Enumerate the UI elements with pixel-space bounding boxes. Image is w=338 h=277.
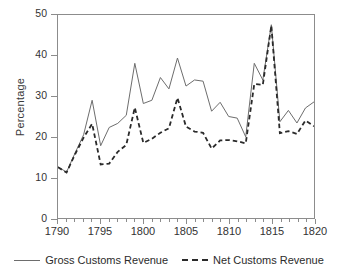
x-tick-minor [152, 219, 153, 222]
x-tick-minor [117, 219, 118, 222]
plot-area [57, 14, 315, 219]
chart-legend: Gross Customs Revenue Net Customs Revenu… [0, 249, 338, 271]
x-tick-minor [246, 219, 247, 222]
y-tick-label: 0 [21, 212, 47, 224]
x-tick-minor [255, 219, 256, 222]
x-tick-label: 1795 [80, 225, 120, 237]
x-tick-minor [74, 219, 75, 222]
x-tick-minor [289, 219, 290, 222]
y-tick-label: 50 [21, 7, 47, 19]
x-tick-major [186, 219, 187, 224]
x-tick-major [57, 219, 58, 224]
x-tick-label: 1815 [252, 225, 292, 237]
legend-label-net: Net Customs Revenue [213, 254, 324, 266]
x-tick-minor [220, 219, 221, 222]
x-tick-minor [169, 219, 170, 222]
legend-swatch-dashed-icon [182, 259, 208, 261]
x-tick-major [315, 219, 316, 224]
x-tick-label: 1820 [295, 225, 335, 237]
legend-item-net: Net Customs Revenue [182, 254, 324, 266]
x-tick-minor [263, 219, 264, 222]
line-gross-customs-revenue [58, 25, 314, 172]
x-tick-major [143, 219, 144, 224]
chart-figure: Percentage 01020304050 17901795180018051… [0, 0, 338, 277]
x-tick-minor [126, 219, 127, 222]
x-tick-minor [91, 219, 92, 222]
chart-lines [58, 15, 314, 218]
y-tick-label: 30 [21, 89, 47, 101]
x-tick-minor [83, 219, 84, 222]
y-tick-label: 20 [21, 130, 47, 142]
x-tick-minor [306, 219, 307, 222]
legend-swatch-solid-icon [14, 260, 40, 261]
x-tick-minor [281, 219, 282, 222]
x-tick-major [100, 219, 101, 224]
x-tick-minor [195, 219, 196, 222]
x-tick-minor [134, 219, 135, 222]
x-tick-label: 1800 [123, 225, 163, 237]
x-tick-label: 1805 [166, 225, 206, 237]
legend-item-gross: Gross Customs Revenue [14, 254, 168, 266]
x-tick-minor [238, 219, 239, 222]
legend-label-gross: Gross Customs Revenue [45, 254, 168, 266]
y-tick-label: 40 [21, 48, 47, 60]
x-tick-major [272, 219, 273, 224]
y-tick-label: 10 [21, 171, 47, 183]
x-tick-minor [212, 219, 213, 222]
x-tick-minor [298, 219, 299, 222]
y-axis-title: Percentage [14, 47, 26, 167]
x-tick-minor [160, 219, 161, 222]
x-tick-minor [66, 219, 67, 222]
line-net-customs-revenue [58, 26, 314, 173]
x-tick-minor [203, 219, 204, 222]
x-tick-label: 1790 [37, 225, 77, 237]
x-tick-label: 1810 [209, 225, 249, 237]
x-tick-major [229, 219, 230, 224]
x-tick-minor [177, 219, 178, 222]
x-tick-minor [109, 219, 110, 222]
